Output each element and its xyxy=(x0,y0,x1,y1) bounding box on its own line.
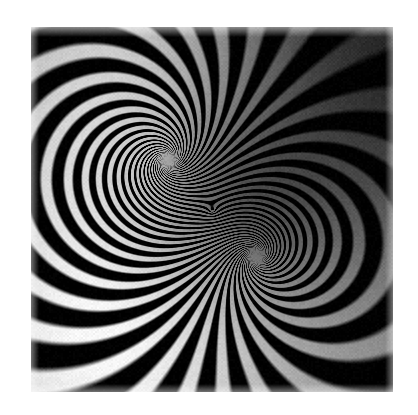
artwork-frame xyxy=(31,27,393,392)
screenshot-root xyxy=(0,0,418,415)
dipole-spiral-moire-image xyxy=(31,27,393,392)
